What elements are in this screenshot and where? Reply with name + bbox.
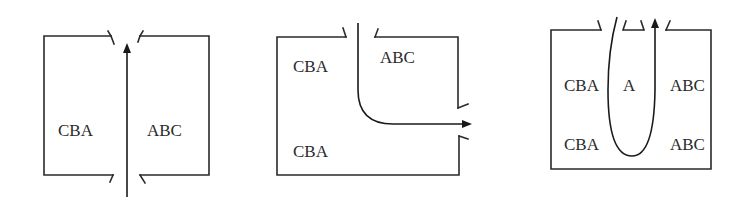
bottom-left-flange [110,175,113,182]
top-right-flange [666,21,670,30]
top-left-flange [108,31,114,44]
top-left-flange [343,28,346,37]
bottom-right-flange [140,175,145,183]
panel-u-turn: CBA A ABC CBA ABC [551,17,711,169]
label-left-upper: CBA [564,76,600,95]
center-divider-top [623,21,644,30]
right-upper-flange [458,104,468,108]
label-center: A [623,76,636,95]
label-top-left: CBA [293,57,329,76]
right-room-wall [140,36,209,175]
top-right-flange [375,29,378,37]
panel-right-turn: CBA ABC CBA [277,23,470,175]
flow-arrow-turn-right [358,23,470,124]
right-lower-flange [459,136,468,139]
label-top-right: ABC [380,48,415,67]
label-right: ABC [147,121,182,140]
label-bottom-left: CBA [293,142,329,161]
diagram-canvas: CBA ABC CBA ABC CBA CBA A ABC CBA ABC [0,0,747,201]
panel-straight-through: CBA ABC [44,31,209,197]
label-left: CBA [58,121,94,140]
label-left-lower: CBA [564,135,600,154]
top-left-flange [598,21,601,30]
label-right-upper: ABC [670,76,705,95]
left-room-wall [44,36,113,175]
label-right-lower: ABC [670,135,705,154]
